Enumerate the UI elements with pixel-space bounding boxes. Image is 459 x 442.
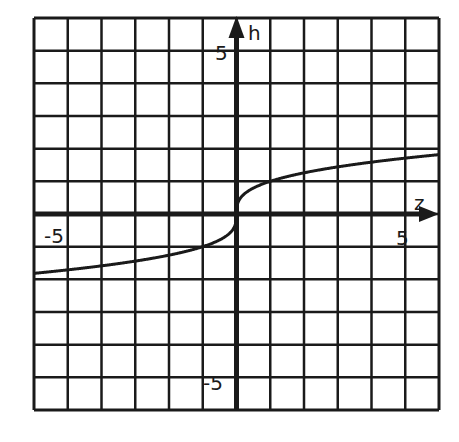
x-tick-label-neg5: -5 (44, 224, 64, 248)
y-axis-label: h (248, 21, 261, 45)
x-axis-label: z (414, 191, 425, 215)
y-tick-label-5: 5 (215, 41, 228, 65)
y-tick-label-neg5: -5 (203, 371, 223, 395)
graph: z h -5 5 5 -5 (0, 0, 459, 442)
x-tick-label-5: 5 (396, 226, 409, 250)
